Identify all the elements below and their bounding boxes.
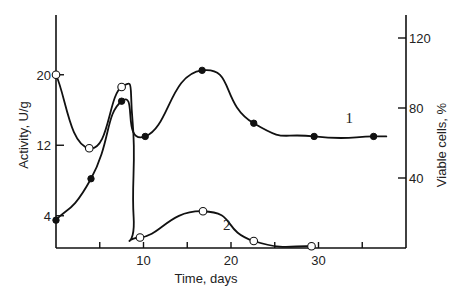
data-point-open bbox=[52, 71, 60, 79]
y-tick-label: 20 bbox=[37, 68, 51, 83]
y-tick-label: 12 bbox=[37, 138, 51, 153]
x-axis-title: Time, days bbox=[174, 271, 238, 286]
x-tick-label: 20 bbox=[224, 253, 238, 268]
data-point-filled bbox=[142, 133, 148, 139]
data-point-open bbox=[118, 83, 126, 91]
data-point-filled bbox=[370, 133, 376, 139]
y-tick-label: 4 bbox=[44, 209, 51, 224]
data-point-open bbox=[308, 242, 316, 250]
data-point-open bbox=[85, 144, 93, 152]
y2-axis-title: Viable cells, % bbox=[434, 102, 449, 187]
data-point-open bbox=[136, 234, 144, 242]
y2-tick-label: 120 bbox=[409, 31, 431, 46]
data-point-filled bbox=[88, 176, 94, 182]
curve-1 bbox=[56, 70, 386, 220]
data-point-filled bbox=[251, 120, 257, 126]
y2-tick-label: 40 bbox=[409, 171, 423, 186]
data-point-open bbox=[199, 207, 207, 215]
y2-tick-label: 80 bbox=[409, 101, 423, 116]
data-point-filled bbox=[118, 98, 124, 104]
curves bbox=[56, 70, 386, 247]
data-point-open bbox=[250, 237, 258, 245]
x-tick-label: 30 bbox=[311, 253, 325, 268]
x-tick-label: 10 bbox=[136, 253, 150, 268]
chart: 102030412204080120Time, daysActivity, U/… bbox=[0, 0, 460, 293]
y-axis-title: Activity, U/g bbox=[16, 101, 31, 169]
axes bbox=[56, 15, 406, 248]
data-point-filled bbox=[199, 67, 205, 73]
curve-2 bbox=[56, 75, 312, 247]
data-point-filled bbox=[311, 133, 317, 139]
curve-label-1: 1 bbox=[345, 110, 353, 126]
data-point-filled bbox=[53, 217, 59, 223]
curve-label-2: 2 bbox=[223, 217, 231, 233]
